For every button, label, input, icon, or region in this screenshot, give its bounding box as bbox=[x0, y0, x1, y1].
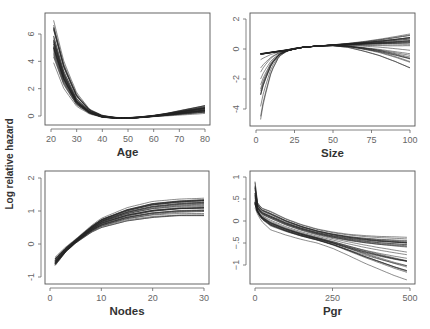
curves-group bbox=[261, 34, 410, 120]
x-tick-label: 0 bbox=[252, 293, 257, 303]
bootstrap-curve bbox=[54, 50, 205, 119]
bootstrap-curve bbox=[54, 43, 205, 118]
x-axis: 0102030Nodes bbox=[47, 288, 209, 317]
y-axis: −1−.50.51 bbox=[231, 174, 246, 270]
plot-frame bbox=[250, 13, 415, 126]
plot-frame bbox=[45, 171, 209, 284]
x-tick-label: 30 bbox=[199, 293, 209, 303]
x-axis: 0250500Pgr bbox=[252, 288, 417, 317]
x-tick-label: 0 bbox=[47, 293, 52, 303]
y-tick-label: 2 bbox=[26, 86, 36, 91]
bootstrap-curve bbox=[54, 53, 205, 119]
y-tick-label: 6 bbox=[26, 31, 36, 36]
y-tick-label: 2 bbox=[231, 16, 241, 21]
y-tick-label: -1 bbox=[26, 273, 36, 281]
x-tick-label: 75 bbox=[366, 135, 376, 145]
x-tick-label: 25 bbox=[289, 135, 299, 145]
curves-group bbox=[54, 20, 205, 118]
bootstrap-curve bbox=[54, 48, 205, 118]
bootstrap-curve bbox=[55, 204, 204, 262]
y-tick-label: 0 bbox=[26, 113, 36, 118]
bootstrap-curve bbox=[54, 54, 205, 119]
y-tick-label: 4 bbox=[26, 59, 36, 64]
bootstrap-curve bbox=[261, 46, 410, 117]
y-tick-label: .5 bbox=[231, 195, 241, 203]
bootstrap-curve bbox=[54, 40, 205, 118]
bootstrap-curve bbox=[255, 204, 407, 261]
x-tick-label: 50 bbox=[328, 135, 338, 145]
bootstrap-curve bbox=[54, 41, 205, 118]
y-tick-label: 0 bbox=[26, 241, 36, 246]
y-axis: -4-202 bbox=[231, 16, 246, 113]
bootstrap-curve bbox=[255, 187, 407, 242]
bootstrap-curve bbox=[54, 48, 205, 118]
bootstrap-curve bbox=[54, 57, 205, 118]
bootstrap-curve bbox=[54, 47, 205, 119]
bootstrap-curve bbox=[54, 47, 205, 119]
y-tick-label: -4 bbox=[231, 105, 241, 113]
bootstrap-curve bbox=[261, 46, 410, 120]
x-tick-label: 250 bbox=[325, 293, 340, 303]
bootstrap-curve bbox=[54, 42, 205, 118]
x-tick-label: 100 bbox=[402, 135, 417, 145]
x-tick-label: 500 bbox=[402, 293, 417, 303]
bootstrap-curve bbox=[54, 51, 205, 119]
x-tick-label: 10 bbox=[96, 293, 106, 303]
panel-age: 20304050607080Age0246 bbox=[26, 13, 210, 158]
bootstrap-curve bbox=[255, 201, 407, 261]
y-tick-label: -2 bbox=[231, 75, 241, 83]
x-tick-label: 50 bbox=[123, 134, 133, 144]
curves-group bbox=[255, 182, 407, 280]
bootstrap-curve bbox=[54, 44, 205, 118]
x-tick-label: 0 bbox=[253, 135, 258, 145]
plot-frame bbox=[45, 13, 210, 125]
x-tick-label: 30 bbox=[72, 134, 82, 144]
x-axis-title: Pgr bbox=[323, 305, 343, 317]
y-axis: -1012 bbox=[26, 175, 41, 281]
x-axis: 20304050607080Age bbox=[46, 129, 210, 158]
bootstrap-curve bbox=[54, 48, 205, 118]
bootstrap-curve bbox=[255, 183, 407, 239]
bootstrap-curve bbox=[55, 201, 204, 260]
curves-group bbox=[55, 198, 204, 265]
y-tick-label: 0 bbox=[231, 46, 241, 51]
panel-size: 0255075100Size-4-202 bbox=[231, 13, 418, 159]
y-tick-label: −1 bbox=[231, 260, 241, 270]
y-tick-label: −.5 bbox=[231, 237, 241, 250]
y-tick-label: 0 bbox=[231, 218, 241, 223]
bootstrap-curve bbox=[55, 198, 204, 257]
panel-pgr: 0250500Pgr−1−.50.51 bbox=[231, 171, 418, 317]
x-axis-title: Size bbox=[321, 147, 344, 159]
bootstrap-curve bbox=[54, 56, 205, 119]
figure-canvas: Log relative hazard 20304050607080Age024… bbox=[0, 0, 430, 329]
y-tick-label: 1 bbox=[26, 208, 36, 213]
y-tick-label: 1 bbox=[231, 174, 241, 179]
x-tick-label: 40 bbox=[97, 134, 107, 144]
panel-nodes: 0102030Nodes-1012 bbox=[26, 171, 209, 317]
shared-y-axis-label: Log relative hazard bbox=[4, 118, 15, 209]
bootstrap-curve bbox=[261, 45, 410, 68]
bootstrap-curve bbox=[55, 208, 204, 262]
bootstrap-curve bbox=[55, 206, 204, 262]
y-axis: 0246 bbox=[26, 31, 41, 118]
x-tick-label: 20 bbox=[148, 293, 158, 303]
bootstrap-curve bbox=[255, 202, 407, 258]
x-tick-label: 70 bbox=[174, 134, 184, 144]
bootstrap-curve bbox=[55, 208, 204, 262]
y-tick-label: 2 bbox=[26, 175, 36, 180]
x-tick-label: 60 bbox=[149, 134, 159, 144]
bootstrap-curve bbox=[54, 47, 205, 119]
x-axis: 0255075100Size bbox=[253, 130, 417, 159]
x-axis-title: Age bbox=[117, 146, 139, 158]
x-tick-label: 80 bbox=[200, 134, 210, 144]
x-axis-title: Nodes bbox=[109, 305, 144, 317]
bootstrap-curve bbox=[55, 208, 204, 263]
x-tick-label: 20 bbox=[46, 134, 56, 144]
bootstrap-curve bbox=[54, 44, 205, 118]
